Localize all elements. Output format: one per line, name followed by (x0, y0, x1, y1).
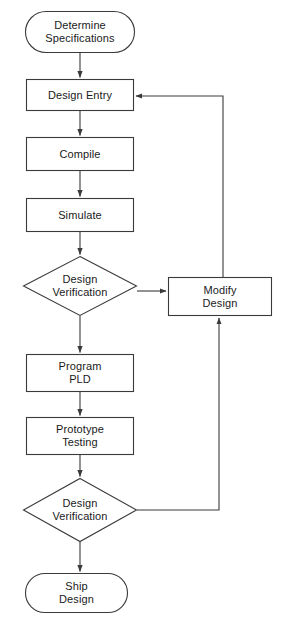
edge-modify-to-entry (136, 96, 223, 277)
node-simulate (27, 199, 134, 232)
node-determine-specifications (26, 12, 135, 53)
node-design-verification-1 (24, 257, 137, 316)
node-design-verification-2 (24, 479, 137, 542)
flowchart-canvas (0, 0, 291, 624)
node-modify-design (169, 278, 272, 316)
node-prototype-testing (27, 418, 134, 455)
node-design-entry (27, 80, 134, 111)
node-ship-design (26, 574, 128, 613)
edge-verify2-to-modify (137, 318, 219, 510)
node-compile (27, 138, 134, 171)
node-program-pld (27, 355, 134, 392)
